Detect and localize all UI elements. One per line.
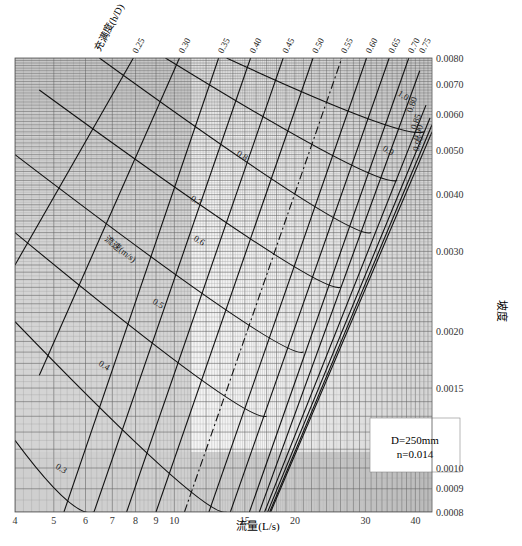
y-tick-label: 0.0080 xyxy=(436,53,464,64)
y-tick-label: 0.0015 xyxy=(436,383,464,394)
x-tick-label: 8 xyxy=(133,515,138,526)
x-tick-label: 10 xyxy=(169,515,179,526)
x-tick-label: 4 xyxy=(13,515,18,526)
y-tick-label: 0.0060 xyxy=(436,109,464,120)
fullness-label: 0.35 xyxy=(216,36,232,55)
y-tick-label: 0.0008 xyxy=(436,507,464,518)
fullness-label: 0.40 xyxy=(247,36,263,55)
y-tick-label: 0.0040 xyxy=(436,189,464,200)
fullness-label: 0.65 xyxy=(386,36,402,55)
shaded-regions xyxy=(15,58,432,512)
x-tick-label: 20 xyxy=(290,515,300,526)
y-tick-label: 0.0020 xyxy=(436,326,464,337)
x-tick-label: 40 xyxy=(410,515,420,526)
x-tick-label: 30 xyxy=(360,515,370,526)
fullness-label: 0.25 xyxy=(130,36,146,55)
fullness-label: 0.50 xyxy=(310,36,326,55)
fullness-label: 0.55 xyxy=(339,36,355,55)
fullness-label: 0.60 xyxy=(363,36,379,55)
y-tick-label: 0.0009 xyxy=(436,483,464,494)
y-axis-label: 坡度 xyxy=(496,300,509,322)
y-tick-label: 0.0010 xyxy=(436,463,464,474)
y-tick-label: 0.0050 xyxy=(436,145,464,156)
y-tick-label: 0.0070 xyxy=(436,79,464,90)
fullness-title: 充满度(h/D) xyxy=(91,2,127,54)
roughness-label: n=0.014 xyxy=(397,448,434,460)
x-tick-label: 5 xyxy=(51,515,56,526)
fullness-label: 0.45 xyxy=(280,36,296,55)
y-tick-label: 0.0030 xyxy=(436,246,464,257)
x-tick-label: 7 xyxy=(110,515,115,526)
x-tick-label: 6 xyxy=(83,515,88,526)
x-tick-label: 9 xyxy=(154,515,159,526)
fullness-label: 0.30 xyxy=(176,36,192,55)
x-axis-label: 流量(L/s) xyxy=(236,519,280,533)
fullness-label: 0.75 xyxy=(417,36,433,55)
nomograph-chart: D=250mm n=0.014 45678910152030400.00800.… xyxy=(0,0,522,546)
